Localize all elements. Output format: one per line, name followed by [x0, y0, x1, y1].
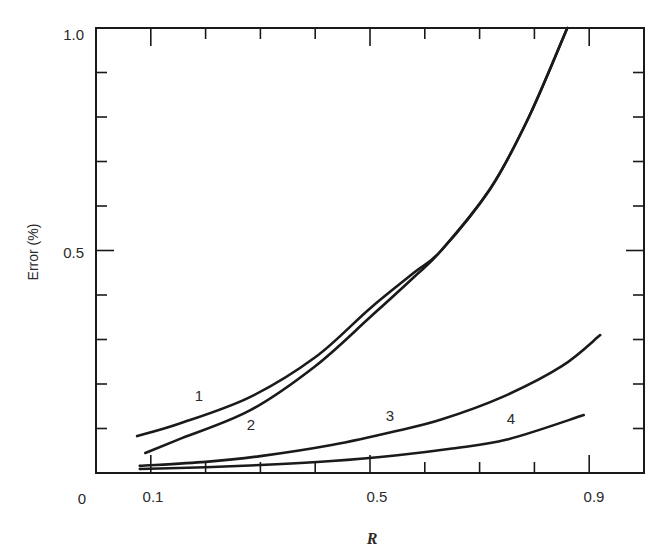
y-axis-label: Error (%)	[25, 224, 41, 281]
series-label-3: 3	[386, 407, 394, 424]
x-tick-label-0.9: 0.9	[584, 488, 605, 505]
series-label-2: 2	[247, 416, 255, 433]
plot-frame	[96, 28, 644, 473]
series-label-1: 1	[195, 387, 203, 404]
series-label-4: 4	[507, 410, 515, 427]
curve-2	[145, 28, 567, 453]
x-tick-label-0.5: 0.5	[367, 488, 388, 505]
y-tick-label-1.0: 1.0	[63, 26, 84, 43]
x-axis-label: R	[366, 530, 378, 547]
x-tick-label-0.1: 0.1	[143, 488, 164, 505]
curve-3	[140, 335, 600, 466]
error-vs-r-chart: 1.0 0.5 0 0.1 0.5 0.9 Error (%) R 1 2 3 …	[0, 0, 667, 559]
axis-ticks	[96, 28, 644, 473]
origin-label: 0	[78, 490, 86, 507]
y-tick-label-0.5: 0.5	[63, 244, 84, 261]
curve-1	[137, 28, 567, 436]
curves	[137, 28, 600, 469]
